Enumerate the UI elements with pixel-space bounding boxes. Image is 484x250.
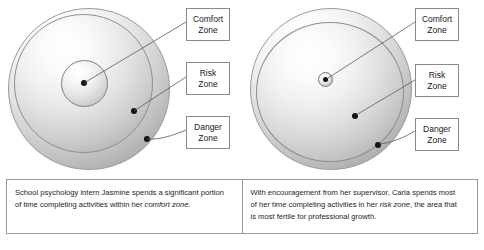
caption-cell-left: School psychology intern Jasmine spends … <box>7 180 243 233</box>
zone-diagram-figure: Comfort Zone Risk Zone Danger Zone Comfo… <box>0 0 484 250</box>
zone-label-line2: Zone <box>427 25 446 36</box>
caption-left-line1: School psychology intern Jasmine spends … <box>15 187 234 199</box>
zone-label-line1: Risk <box>200 68 217 79</box>
zone-label-line1: Danger <box>423 124 451 135</box>
caption-left-emphasis: comfort zone <box>145 200 189 209</box>
zone-label-risk-left: Risk Zone <box>186 62 230 95</box>
zone-label-line2: Zone <box>427 81 446 92</box>
zone-label-line2: Zone <box>427 135 446 146</box>
caption-cell-right: With encouragement from her supervisor, … <box>243 180 478 233</box>
zone-label-comfort-left: Comfort Zone <box>186 8 230 41</box>
caption-left-line2-pre: of time completing activities within her <box>15 200 145 209</box>
zone-label-line2: Zone <box>198 25 217 36</box>
caption-left-line2: of time completing activities within her… <box>15 199 234 211</box>
zone-label-danger-right: Danger Zone <box>415 118 459 151</box>
diagram-panel-right: Comfort Zone Risk Zone Danger Zone <box>242 0 484 175</box>
caption-right-line2-pre: of her time completing activities in her <box>251 200 380 209</box>
zone-label-line2: Zone <box>198 133 217 144</box>
zone-label-risk-right: Risk Zone <box>415 64 459 97</box>
caption-right-line2: of her time completing activities in her… <box>251 199 470 211</box>
zone-label-line1: Danger <box>194 122 222 133</box>
caption-right-emphasis: risk zone <box>380 200 410 209</box>
zone-label-line1: Comfort <box>422 14 452 25</box>
diagram-panel-left: Comfort Zone Risk Zone Danger Zone <box>0 0 242 175</box>
caption-right-line2-post: , the area that <box>410 200 457 209</box>
zone-label-line2: Zone <box>198 79 217 90</box>
caption-table: School psychology intern Jasmine spends … <box>6 179 478 234</box>
zone-label-line1: Comfort <box>193 14 223 25</box>
caption-left-line2-post: . <box>188 200 190 209</box>
zone-label-line1: Risk <box>429 70 446 81</box>
zone-label-comfort-right: Comfort Zone <box>415 8 459 41</box>
caption-right-line1: With encouragement from her supervisor, … <box>251 187 470 199</box>
zone-label-danger-left: Danger Zone <box>186 116 230 149</box>
caption-right-line3: is most fertile for professional growth. <box>251 211 470 223</box>
